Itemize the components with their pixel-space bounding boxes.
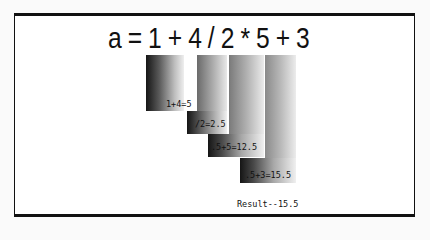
step-2-label: /2=2.5: [195, 119, 226, 129]
step-3-label: .5+5=12.5: [211, 142, 257, 152]
step-1-label: 1+4=5: [166, 99, 192, 109]
expression-title: a = 1 + 4 / 2 * 5 + 3: [108, 22, 309, 54]
result-label: Result--15.5: [237, 199, 298, 209]
step-4-label: .5+3=15.5: [245, 170, 291, 180]
